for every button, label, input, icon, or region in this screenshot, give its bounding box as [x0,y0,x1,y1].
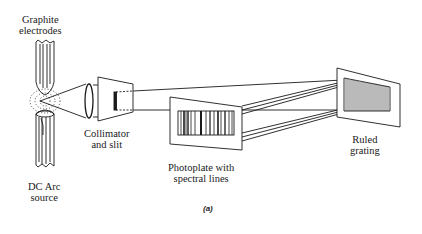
label-line: Photoplate with [168,162,234,173]
label-line: Collimator [84,128,130,139]
label-line: DC Arc [28,181,60,192]
label-line: and slit [84,139,130,150]
figure-caption: (a) [203,204,213,213]
label-line: grating [350,145,380,156]
label-line: electrodes [19,25,62,36]
slit-icon [114,92,117,110]
bottom-electrode-icon [36,110,54,167]
label-photoplate: Photoplate with spectral lines [168,162,234,184]
diagram-drawing [0,0,422,234]
label-dc-arc-source: DC Arc source [28,181,60,203]
top-electrode-icon [36,40,54,95]
spectrograph-diagram: Graphite electrodes DC Arc source Collim… [0,0,422,234]
label-collimator-slit: Collimator and slit [84,128,130,150]
label-line: Ruled [350,134,380,145]
label-ruled-grating: Ruled grating [350,134,380,156]
collimator-lens-icon [85,84,93,118]
label-line: source [28,192,60,203]
label-line: Graphite [19,14,62,25]
label-graphite-electrodes: Graphite electrodes [19,14,62,36]
label-line: spectral lines [168,173,234,184]
